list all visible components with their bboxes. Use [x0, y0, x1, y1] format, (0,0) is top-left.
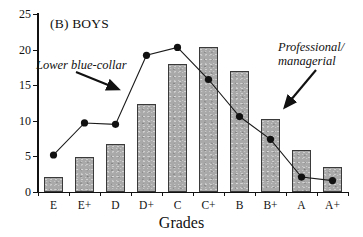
x-tick-label-E: E [50, 200, 57, 212]
x-tick-label-Bplus: B+ [263, 200, 277, 212]
data-point-E [50, 151, 57, 158]
x-tick [100, 192, 101, 196]
y-tick-label: 25 [19, 8, 31, 20]
x-tick-label-Aplus: A+ [325, 200, 340, 212]
data-point-Bplus [267, 136, 274, 143]
x-tick [162, 192, 163, 196]
annotation-lower-blue-collar: Lower blue-collar [36, 58, 127, 72]
data-point-B [236, 113, 243, 120]
data-point-A [298, 173, 305, 180]
annotation-professional-line2: managerial [278, 54, 344, 68]
x-tick-label-D: D [111, 200, 119, 212]
x-tick [348, 192, 349, 196]
x-axis-title: Grades [0, 214, 363, 232]
annotation-professional-line1: Professional/ [278, 40, 344, 54]
x-tick [255, 192, 256, 196]
x-tick [286, 192, 287, 196]
x-tick [69, 192, 70, 196]
y-tick-label: 15 [19, 79, 31, 91]
y-tick-label: 20 [19, 44, 31, 56]
x-tick-label-B: B [236, 200, 244, 212]
x-tick-label-Eplus: E+ [78, 200, 92, 212]
x-tick [131, 192, 132, 196]
y-tick-label: 0 [25, 186, 31, 198]
data-point-Eplus [81, 119, 88, 126]
y-tick-label: 10 [19, 115, 31, 127]
annotation-lower-blue-collar-label: Lower blue-collar [36, 58, 127, 72]
data-point-Aplus [329, 177, 336, 184]
x-tick-label-A: A [297, 200, 305, 212]
x-tick [193, 192, 194, 196]
x-tick-label-Dplus: D+ [139, 200, 154, 212]
x-tick-label-C: C [174, 200, 182, 212]
data-point-D [112, 121, 119, 128]
data-point-Cplus [205, 76, 212, 83]
x-tick [38, 192, 39, 196]
x-tick-label-Cplus: C+ [201, 200, 215, 212]
chart-container: (B) BOYS 0510152025 EE+DD+CC+BB+AA+ Lowe… [0, 0, 363, 237]
x-tick [317, 192, 318, 196]
x-tick [224, 192, 225, 196]
data-point-C [174, 44, 181, 51]
annotation-professional-managerial: Professional/ managerial [278, 40, 344, 68]
data-point-Dplus [143, 52, 150, 59]
y-tick-label: 5 [25, 150, 31, 162]
